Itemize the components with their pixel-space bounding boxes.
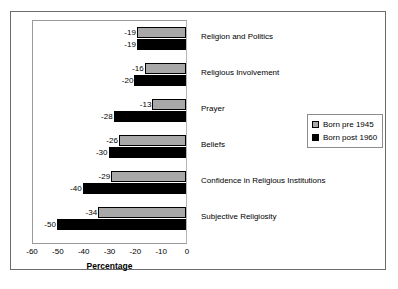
bar-pre-1945[interactable]: -26 (119, 135, 186, 146)
legend-label-pre-1945: Born pre 1945 (323, 121, 374, 129)
x-tick-label: -60 (20, 248, 44, 256)
x-tick-label: -20 (123, 248, 147, 256)
bar-post-1960[interactable]: -40 (83, 183, 186, 194)
legend-swatch-post-1960 (312, 134, 319, 141)
bar-value-label: -40 (70, 185, 82, 193)
bar-post-1960[interactable]: -28 (114, 111, 186, 122)
bar-value-label: -50 (44, 221, 56, 229)
bar-value-label: -19 (124, 29, 136, 37)
bar-pre-1945[interactable]: -13 (152, 99, 186, 110)
bar-group: -34 -50 (33, 207, 186, 237)
bar-pre-1945[interactable]: -29 (111, 171, 186, 182)
chart-plot-area: -19 -19 -16 -20 -13 -28 (32, 20, 187, 244)
bar-group: -26 -30 (33, 135, 186, 165)
bar-value-label: -28 (101, 113, 113, 121)
bar-post-1960[interactable]: -19 (137, 39, 186, 50)
chart-legend: Born pre 1945 Born post 1960 (307, 114, 383, 148)
category-label-religious-involvement: Religious Involvement (201, 69, 279, 77)
category-label-subjective-religiosity: Subjective Religiosity (201, 213, 277, 221)
legend-label-post-1960: Born post 1960 (323, 134, 377, 142)
bar-group: -19 -19 (33, 27, 186, 57)
bar-group: -16 -20 (33, 63, 186, 93)
bar-value-label: -30 (96, 149, 108, 157)
bar-value-label: -20 (122, 77, 134, 85)
legend-swatch-pre-1945 (312, 121, 319, 128)
x-tick-label: -10 (149, 248, 173, 256)
category-label-beliefs: Beliefs (201, 141, 225, 149)
x-tick-label: -40 (72, 248, 96, 256)
x-tick-label: -30 (98, 248, 122, 256)
bar-group: -13 -28 (33, 99, 186, 129)
x-axis-title: Percentage (32, 262, 187, 271)
category-label-religion-and-politics: Religion and Politics (201, 33, 273, 41)
legend-item-post-1960[interactable]: Born post 1960 (312, 132, 377, 143)
bar-value-label: -34 (86, 209, 98, 217)
category-label-confidence-in-religious-institutions: Confidence in Religious Institutions (201, 177, 326, 185)
chart-figure: -19 -19 -16 -20 -13 -28 (10, 11, 386, 270)
bar-value-label: -29 (99, 173, 111, 181)
x-tick-label: -50 (46, 248, 70, 256)
bar-post-1960[interactable]: -20 (134, 75, 186, 86)
legend-item-pre-1945[interactable]: Born pre 1945 (312, 119, 377, 130)
bar-pre-1945[interactable]: -34 (98, 207, 186, 218)
x-tick-label: 0 (175, 248, 199, 256)
bar-pre-1945[interactable]: -19 (137, 27, 186, 38)
category-label-prayer: Prayer (201, 105, 225, 113)
bar-group: -29 -40 (33, 171, 186, 201)
bar-value-label: -16 (132, 65, 144, 73)
bar-post-1960[interactable]: -50 (57, 219, 186, 230)
bar-value-label: -26 (106, 137, 118, 145)
bar-pre-1945[interactable]: -16 (145, 63, 186, 74)
bar-value-label: -19 (124, 41, 136, 49)
bar-value-label: -13 (140, 101, 152, 109)
bar-post-1960[interactable]: -30 (109, 147, 187, 158)
